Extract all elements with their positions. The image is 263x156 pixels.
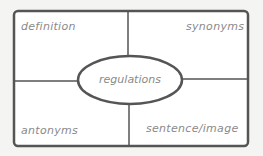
label-sentence-image: sentence/image bbox=[146, 122, 239, 135]
center-term: regulations bbox=[78, 73, 182, 86]
label-antonyms: antonyms bbox=[21, 124, 78, 137]
label-synonyms: synonyms bbox=[186, 20, 244, 33]
label-definition: definition bbox=[21, 20, 76, 33]
